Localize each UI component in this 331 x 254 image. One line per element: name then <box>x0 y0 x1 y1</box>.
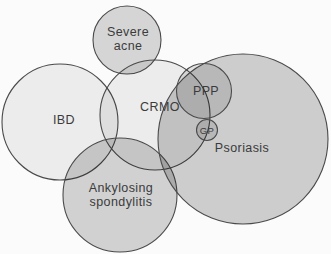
ppp-label: PPP <box>193 84 219 98</box>
venn-diagram: IBDSevereacneCRMOAnkylosingspondylitisPs… <box>0 0 331 254</box>
crmo-label: CRMO <box>140 100 180 114</box>
psoriasis-label: Psoriasis <box>215 141 269 155</box>
gp-label: GP <box>200 125 215 136</box>
ibd-label: IBD <box>53 113 75 127</box>
ankylosing-spondylitis-label: Ankylosingspondylitis <box>89 181 153 209</box>
diagram-figure: IBDSevereacneCRMOAnkylosingspondylitisPs… <box>0 0 331 254</box>
